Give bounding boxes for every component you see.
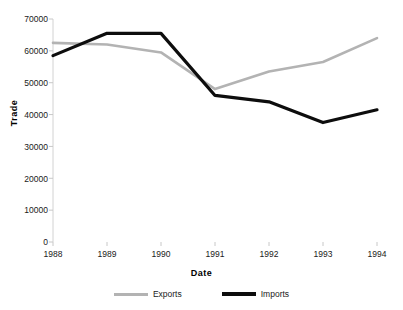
- series-line-exports: [53, 38, 377, 89]
- x-tick-label: 1990: [138, 249, 184, 259]
- legend-item-exports: Exports: [114, 289, 182, 299]
- x-tick-label: 1993: [300, 249, 346, 259]
- legend-label-exports: Exports: [153, 289, 182, 299]
- legend-swatch-imports: [222, 292, 256, 296]
- legend-label-imports: Imports: [261, 289, 289, 299]
- x-axis-title: Date: [0, 268, 403, 278]
- x-tick-label: 1988: [30, 249, 76, 259]
- x-tick-label: 1989: [84, 249, 130, 259]
- chart-legend: Exports Imports: [0, 289, 403, 299]
- x-tick-label: 1992: [246, 249, 292, 259]
- legend-swatch-exports: [114, 293, 148, 296]
- legend-item-imports: Imports: [222, 289, 289, 299]
- plot-area: [0, 0, 403, 310]
- x-tick-label: 1994: [354, 249, 400, 259]
- line-chart: Trade 70000 60000 50000 40000 30000 2000…: [0, 0, 403, 310]
- series-line-imports: [53, 33, 377, 122]
- x-tick-label: 1991: [192, 249, 238, 259]
